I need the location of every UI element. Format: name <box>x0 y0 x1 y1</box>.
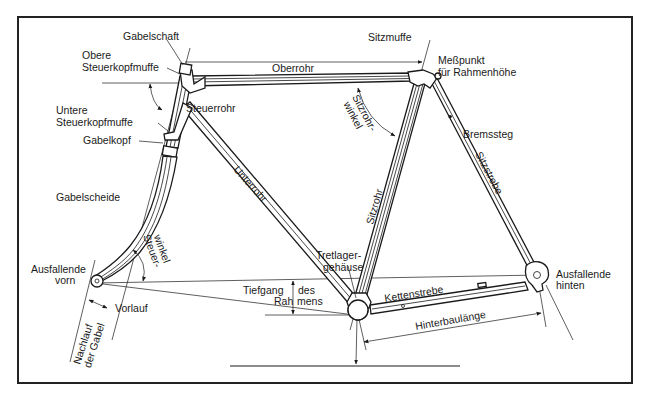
svg-text:hinten: hinten <box>556 279 585 291</box>
fork-crown <box>162 146 177 157</box>
label-steuerrohr: Steuerrohr <box>186 102 236 114</box>
label-nachlauf-der-gabel: Nachlauf der Gabel <box>70 318 106 369</box>
label-steuerwinkel: Steuer- winkel <box>141 229 174 269</box>
down-tube <box>182 102 357 305</box>
svg-text:Gabelschaft: Gabelschaft <box>123 30 179 42</box>
svg-text:vorn: vorn <box>55 274 76 286</box>
fork-steerer <box>179 63 192 75</box>
label-ausfallende-vorn: Ausfallende vorn <box>31 263 86 286</box>
seat-stay <box>430 78 536 271</box>
label-bremssteg: Bremssteg <box>463 128 513 140</box>
label-obere-steuerkopfmuffe: Obere Steuerkopfmuffe <box>82 49 159 73</box>
label-gabelscheide: Gabelscheide <box>56 191 120 203</box>
label-tiefgang-des-rahmens: Tiefgang des Rah mens <box>243 284 323 307</box>
svg-text:Gabelscheide: Gabelscheide <box>56 191 120 203</box>
label-untere-steuerkopfmuffe: Untere Steuerkopfmuffe <box>56 104 133 128</box>
label-messpunkt: Meßpunkt für Rahmenhöhe <box>438 54 516 78</box>
label-gabelschaft: Gabelschaft <box>123 30 179 42</box>
label-sitzrohrwinkel: Sitzrohr- winkel <box>341 92 380 138</box>
rear-dropout <box>525 262 548 292</box>
label-vorlauf: Vorlauf <box>115 302 148 314</box>
svg-text:Unterrohr: Unterrohr <box>232 163 271 204</box>
svg-text:Steuerrohr: Steuerrohr <box>186 102 236 114</box>
svg-text:Meßpunkt: Meßpunkt <box>438 54 485 66</box>
bb-vertical-line <box>356 318 357 364</box>
label-ausfallende-hinten: Ausfallende hinten <box>556 268 611 291</box>
label-hinterbaulaenge: Hinterbaulänge <box>414 308 486 332</box>
svg-text:Obere: Obere <box>82 49 111 61</box>
label-sitzmuffe: Sitzmuffe <box>368 31 412 43</box>
svg-text:Sitzmuffe: Sitzmuffe <box>368 31 412 43</box>
label-oberrohr: Oberrohr <box>272 62 315 74</box>
svg-text:Oberrohr: Oberrohr <box>272 62 315 74</box>
svg-text:Untere: Untere <box>56 104 88 116</box>
svg-text:Tretlager-: Tretlager- <box>316 249 362 261</box>
svg-text:Steuerkopfmuffe: Steuerkopfmuffe <box>82 61 159 73</box>
label-unterrohr: Unterrohr <box>232 163 271 204</box>
label-gabelkopf: Gabelkopf <box>83 134 131 146</box>
bicycle-frame-diagram: Gabelschaft Obere Steuerkopfmuffe Untere… <box>0 0 646 402</box>
svg-text:Vorlauf: Vorlauf <box>115 302 148 314</box>
steering-angle-arc-top <box>150 84 162 110</box>
top-tube <box>190 73 412 86</box>
svg-text:Rah: Rah <box>274 295 293 307</box>
svg-text:Hinterbaulänge: Hinterbaulänge <box>414 308 486 332</box>
hub-horizontal-line <box>95 275 540 283</box>
svg-text:für Rahmenhöhe: für Rahmenhöhe <box>438 66 516 78</box>
rear-axle-line-2 <box>546 285 573 340</box>
svg-text:gehäuse: gehäuse <box>323 261 363 273</box>
front-dropout <box>91 275 103 287</box>
label-tretlagergehaeuse: Tretlager- gehäuse <box>316 249 363 273</box>
svg-text:Gabelkopf: Gabelkopf <box>83 134 131 146</box>
svg-text:mens: mens <box>297 295 323 307</box>
svg-text:Steuerkopfmuffe: Steuerkopfmuffe <box>56 116 133 128</box>
vorlauf-dimension <box>89 300 107 308</box>
svg-text:Bremssteg: Bremssteg <box>463 128 513 140</box>
